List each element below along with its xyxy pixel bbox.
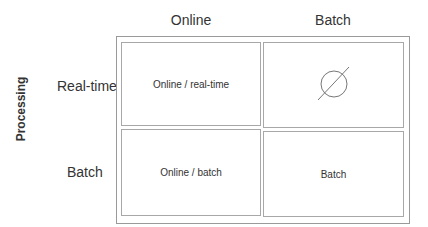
cell-online-batch: Online / batch (121, 129, 261, 216)
cell-label: Batch (321, 169, 347, 180)
row-header-batch: Batch (67, 164, 103, 180)
cell-label: Online / real-time (153, 79, 229, 90)
column-header-online: Online (121, 12, 261, 28)
row-header-real-time: Real-time (57, 78, 117, 94)
cell-label: Online / batch (160, 167, 222, 178)
column-header-batch: Batch (263, 12, 403, 28)
cell-online-real-time: Online / real-time (121, 42, 261, 126)
cell-batch-real-time (263, 42, 404, 128)
empty-set-icon (312, 62, 356, 108)
cell-batch-batch: Batch (263, 131, 404, 217)
axis-label-processing: Processing (14, 74, 28, 144)
